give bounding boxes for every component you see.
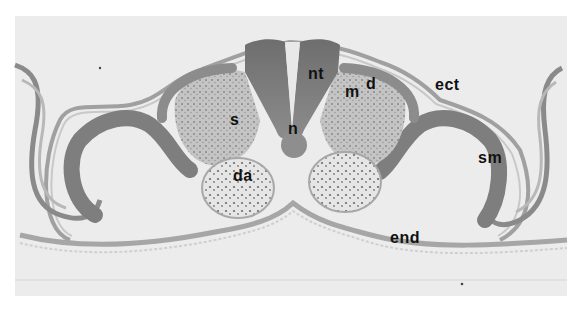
- label-endoderm: end: [390, 230, 420, 246]
- label-notochord: n: [288, 121, 298, 137]
- speck: [99, 67, 101, 69]
- label-somatic-mesoderm: sm: [478, 150, 502, 166]
- label-dermatome: d: [366, 76, 376, 92]
- speck: [461, 283, 464, 286]
- label-ectoderm: ect: [435, 77, 460, 93]
- right-dorsal-aorta: [309, 152, 381, 212]
- label-myotome: m: [345, 84, 360, 100]
- left-somatic-mesoderm: [72, 118, 190, 215]
- label-neural-tube: nt: [308, 66, 324, 82]
- label-sclerotome: s: [230, 112, 239, 128]
- label-dorsal-aorta: da: [233, 168, 253, 184]
